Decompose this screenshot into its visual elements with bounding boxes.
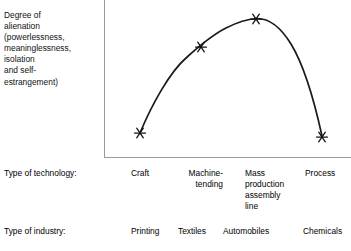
data-point-mass-production [251,14,262,24]
industry-row-title: Type of industry: [4,226,65,237]
data-point-craft [135,128,146,138]
data-point-machine-tending [196,42,207,52]
technology-label-mass-production: Mass production assembly line [245,168,284,212]
industry-label-chemicals: Chemicals [303,226,342,237]
technology-label-process: Process [305,168,335,179]
alienation-curve [140,18,322,136]
industry-label-textiles: Textiles [178,226,206,237]
technology-row-title: Type of technology: [4,168,77,179]
industry-label-printing: Printing [131,226,159,237]
chart-plot-area [0,0,351,160]
data-point-markers [135,14,328,142]
technology-label-craft: Craft [131,168,149,179]
technology-label-machine-tending: Machine- tending [177,168,223,190]
alienation-curve-chart [0,0,351,160]
industry-label-automobiles: Automobiles [223,226,269,237]
